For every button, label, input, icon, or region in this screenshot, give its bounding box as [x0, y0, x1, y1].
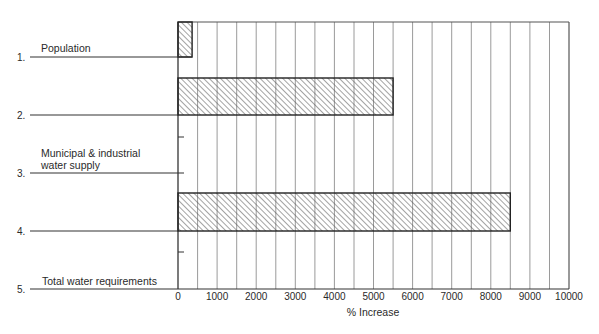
row-5-number: 5.: [17, 284, 25, 295]
row-3-number: 3.: [17, 168, 25, 179]
x-axis-label: % Increase: [347, 306, 400, 318]
row-2-number: 2.: [17, 110, 25, 121]
vertical-gridlines: [198, 22, 550, 289]
bar-chart: 1. Population 2. 3. Municipal & industri…: [0, 0, 599, 334]
bar-row-4: [178, 193, 510, 231]
row-3-label-line2: water supply: [40, 159, 101, 171]
bar-population: [178, 22, 192, 57]
x-tick-label: 7000: [441, 291, 464, 302]
x-tick-label: 9000: [519, 291, 542, 302]
x-tick-label: 0: [175, 291, 181, 302]
row-5-label: Total water requirements: [42, 275, 157, 287]
bar-row-2: [178, 78, 393, 115]
row-3-label-line1: Municipal & industrial: [41, 147, 140, 159]
x-tick-label: 5000: [362, 291, 385, 302]
x-tick-label: 1000: [206, 291, 229, 302]
x-tick-label: 6000: [401, 291, 424, 302]
x-tick-label: 8000: [480, 291, 503, 302]
x-tick-label: 4000: [323, 291, 346, 302]
x-tick-label: 3000: [284, 291, 307, 302]
row-4-number: 4.: [17, 226, 25, 237]
row-1-label: Population: [41, 42, 91, 54]
x-axis-tick-labels: 0100020003000400050006000700080009000100…: [175, 291, 583, 302]
x-tick-label: 10000: [555, 291, 583, 302]
row-1-number: 1.: [17, 52, 25, 63]
x-tick-label: 2000: [245, 291, 268, 302]
